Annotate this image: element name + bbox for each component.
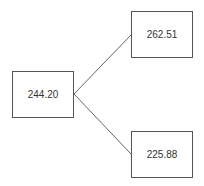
edge-root-to-down bbox=[74, 94, 131, 154]
node-up: 262.51 bbox=[131, 11, 193, 58]
node-down: 225.88 bbox=[131, 131, 193, 178]
node-up-label: 262.51 bbox=[147, 29, 178, 40]
edge-root-to-up bbox=[74, 35, 131, 94]
node-root-label: 244.20 bbox=[28, 89, 59, 100]
node-down-label: 225.88 bbox=[147, 149, 178, 160]
node-root: 244.20 bbox=[12, 71, 74, 118]
